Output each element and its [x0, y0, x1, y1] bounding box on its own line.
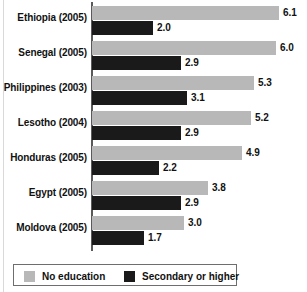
legend-item-no-education: No education: [24, 269, 105, 283]
bar-value-label: 3.0: [188, 216, 202, 230]
legend-label-no-education: No education: [42, 271, 105, 282]
bar-value-label: 6.0: [280, 41, 294, 55]
legend-swatch-no-education: [24, 271, 35, 282]
bar-sec-high: [92, 56, 181, 70]
category-label: Lesotho (2004): [0, 117, 87, 128]
bar-no-edu: [92, 41, 276, 55]
bar-sec-high: [92, 126, 181, 140]
bar-group: Senegal (2005)6.02.9: [0, 39, 307, 74]
bar-group: Philippines (2003)5.33.1: [0, 74, 307, 109]
bar-value-label: 5.3: [258, 76, 272, 90]
legend-swatch-secondary-or-higher: [124, 271, 135, 282]
bar-sec-high: [92, 231, 144, 245]
bar-no-edu: [92, 181, 208, 195]
bar-no-edu: [92, 6, 279, 20]
category-label: Senegal (2005): [0, 47, 87, 58]
category-label: Egypt (2005): [0, 187, 87, 198]
bar-group: Honduras (2005)4.92.2: [0, 144, 307, 179]
bar-no-edu: [92, 76, 254, 90]
bar-value-label: 2.2: [163, 161, 177, 175]
bar-value-label: 3.8: [212, 181, 226, 195]
bar-no-edu: [92, 216, 184, 230]
plot-area: Ethiopia (2005)6.12.0Senegal (2005)6.02.…: [0, 0, 307, 252]
bar-value-label: 2.0: [157, 21, 171, 35]
legend-item-secondary-or-higher: Secondary or higher: [124, 269, 239, 283]
category-label: Moldova (2005): [0, 222, 87, 233]
bar-no-edu: [92, 146, 242, 160]
bar-sec-high: [92, 91, 187, 105]
legend-label-secondary-or-higher: Secondary or higher: [142, 271, 239, 282]
bar-sec-high: [92, 196, 181, 210]
bar-value-label: 3.1: [191, 91, 205, 105]
bar-sec-high: [92, 161, 159, 175]
bar-value-label: 4.9: [246, 146, 260, 160]
bar-value-label: 2.9: [185, 196, 199, 210]
category-label: Honduras (2005): [0, 152, 87, 163]
bar-chart: Ethiopia (2005)6.12.0Senegal (2005)6.02.…: [0, 0, 307, 292]
bar-value-label: 2.9: [185, 56, 199, 70]
bar-value-label: 5.2: [255, 111, 269, 125]
bar-value-label: 6.1: [283, 6, 297, 20]
category-label: Philippines (2003): [0, 82, 87, 93]
chart-legend: No education Secondary or higher: [13, 264, 237, 286]
bar-group: Egypt (2005)3.82.9: [0, 179, 307, 214]
bar-group: Ethiopia (2005)6.12.0: [0, 4, 307, 39]
category-label: Ethiopia (2005): [0, 12, 87, 23]
bar-sec-high: [92, 21, 153, 35]
bar-value-label: 2.9: [185, 126, 199, 140]
bar-no-edu: [92, 111, 251, 125]
bar-value-label: 1.7: [148, 231, 162, 245]
bar-group: Moldova (2005)3.01.7: [0, 214, 307, 249]
bar-group: Lesotho (2004)5.22.9: [0, 109, 307, 144]
